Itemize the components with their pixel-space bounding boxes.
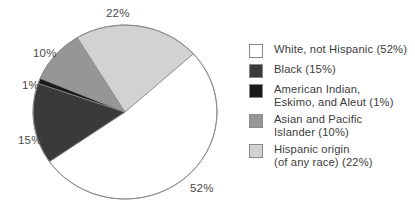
legend-item-white: White, not Hispanic (52%) — [249, 43, 414, 58]
legend-label-white-line1: White, not Hispanic (52%) — [274, 43, 407, 55]
legend-label-black-line1: Black (15%) — [274, 63, 336, 75]
legend-label-asian-pacific-line1: Asian and Pacific — [274, 113, 362, 125]
pie-slice-label-black: 15% — [18, 135, 42, 147]
legend-label-hispanic-line2: (of any race) (22%) — [274, 156, 373, 169]
pie-slice-label-asian: 10% — [33, 48, 57, 60]
legend-swatch-black — [249, 64, 263, 78]
legend-item-asian-pacific: Asian and Pacific Islander (10%) — [249, 113, 414, 138]
legend-label-hispanic-line1: Hispanic origin — [274, 143, 350, 155]
legend-swatch-hispanic — [249, 144, 263, 158]
legend-label-white: White, not Hispanic (52%) — [274, 43, 407, 56]
legend-item-hispanic: Hispanic origin (of any race) (22%) — [249, 143, 414, 168]
legend-item-american-indian: American Indian, Eskimo, and Aleut (1%) — [249, 83, 414, 108]
pie-slice-label-american-indian: 1% — [22, 80, 39, 92]
legend-label-american-indian: American Indian, Eskimo, and Aleut (1%) — [274, 83, 394, 108]
legend-label-asian-pacific: Asian and Pacific Islander (10%) — [274, 113, 362, 138]
pie-slices-group — [33, 25, 217, 199]
pie-slice-label-hispanic: 22% — [106, 8, 130, 20]
chart-legend: White, not Hispanic (52%) Black (15%) Am… — [249, 43, 414, 174]
pie-slice-label-white: 52% — [190, 183, 214, 195]
legend-label-american-indian-line1: American Indian, — [274, 83, 360, 95]
legend-swatch-american-indian — [249, 84, 263, 98]
legend-item-black: Black (15%) — [249, 63, 414, 78]
legend-label-black: Black (15%) — [274, 63, 336, 76]
legend-swatch-white — [249, 44, 263, 58]
pie-chart-area: 22% 10% 1% 15% 52% — [0, 0, 240, 213]
legend-label-hispanic: Hispanic origin (of any race) (22%) — [274, 143, 373, 168]
legend-swatch-asian-pacific — [249, 114, 263, 128]
pie-chart-figure: 22% 10% 1% 15% 52% White, not Hispanic (… — [0, 0, 415, 213]
legend-label-asian-pacific-line2: Islander (10%) — [274, 126, 362, 139]
legend-label-american-indian-line2: Eskimo, and Aleut (1%) — [274, 96, 394, 109]
